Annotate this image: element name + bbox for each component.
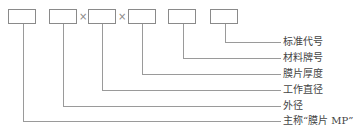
leader-vertical-main-name (23, 24, 24, 121)
outer-diameter-box (49, 9, 77, 24)
label-thickness: 膜片厚度 (283, 68, 323, 80)
label-main-name: 主称“膜片 MP” (283, 115, 353, 127)
leader-vertical-standard-code (225, 24, 226, 42)
standard-code-box (210, 9, 238, 24)
leader-vertical-working-diameter (102, 24, 103, 90)
leader-vertical-thickness (142, 24, 143, 74)
multiply-sign: × (79, 9, 87, 24)
leader-horizontal-working-diameter (102, 90, 281, 91)
leader-vertical-outer-diameter (63, 24, 64, 106)
label-standard-code: 标准代号 (283, 36, 323, 48)
leader-horizontal-standard-code (225, 42, 281, 43)
working-diameter-box (88, 9, 116, 24)
thickness-box (128, 9, 156, 24)
label-outer-diameter: 外径 (283, 100, 303, 112)
leader-vertical-material-grade (183, 24, 184, 58)
leader-horizontal-thickness (142, 74, 281, 75)
label-material-grade: 材料牌号 (283, 52, 323, 64)
label-working-diameter: 工作直径 (283, 84, 323, 96)
leader-horizontal-material-grade (183, 58, 281, 59)
leader-horizontal-outer-diameter (63, 106, 281, 107)
leader-horizontal-main-name (23, 121, 281, 122)
material-grade-box (168, 9, 196, 24)
main-name-box (8, 9, 36, 24)
multiply-sign: × (118, 9, 126, 24)
